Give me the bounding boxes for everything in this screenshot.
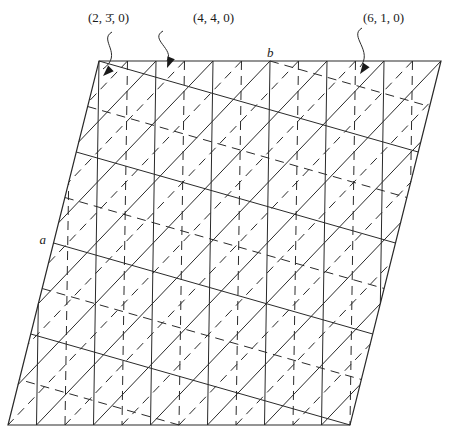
plane-line-steep-dashed [293,61,299,425]
arrowhead-icon [103,66,114,77]
plane-line-diagonal [94,61,442,425]
plane-line-diagonal [37,61,385,425]
plane-line-diagonal-dashed [122,101,431,425]
lattice-diagram: a b (2, 3̄, 0) (4, 4, 0) (6, 1, 0) [0,0,454,437]
plane-line-diagonal [79,61,156,142]
plane-line-horizontal [76,152,395,243]
plane-line-diagonal [208,223,401,425]
lattice-planes [8,61,441,425]
plane-line-horizontal-dashed [42,289,361,380]
plane-line-horizontal-dashed [88,107,407,198]
callout-4-4-0: (4, 4, 0) [159,10,234,68]
plane-line-diagonal-dashed [236,263,390,425]
plane-line-steep-dashed [236,61,242,425]
plane-line-horizontal-dashed [65,198,384,289]
axis-label-a: a [40,232,47,247]
plane-label-6-1-0: (6, 1, 0) [363,10,404,25]
plane-line-diagonal [59,61,213,223]
plane-label-2-3bar-0: (2, 3̄, 0) [88,10,129,25]
plane-line-steep-dashed [122,61,128,425]
arrowhead-icon [167,56,175,68]
plane-line-diagonal-dashed [69,61,185,182]
plane-line-steep-dashed [179,61,185,425]
plane-line-steep-dashed [350,61,356,425]
callout-arrow-icon [159,31,169,61]
plane-callouts: (2, 3̄, 0) (4, 4, 0) (6, 1, 0) [88,10,404,76]
plane-line-horizontal-dashed [270,61,430,107]
plane-line-diagonal [38,61,270,304]
plane-line-steep-dashed [411,61,413,182]
plane-line-diagonal [265,304,381,425]
plane-line-diagonal-dashed [179,182,411,425]
axis-label-b: b [267,45,274,60]
plane-line-diagonal-dashed [293,344,370,425]
plane-line-diagonal [18,61,327,385]
plane-label-4-4-0: (4, 4, 0) [193,10,234,25]
plane-line-horizontal [54,243,373,334]
